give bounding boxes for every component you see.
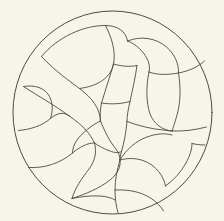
figure-root — [0, 0, 224, 221]
cell-partition-drawing — [0, 0, 224, 221]
paper-background — [0, 0, 224, 221]
